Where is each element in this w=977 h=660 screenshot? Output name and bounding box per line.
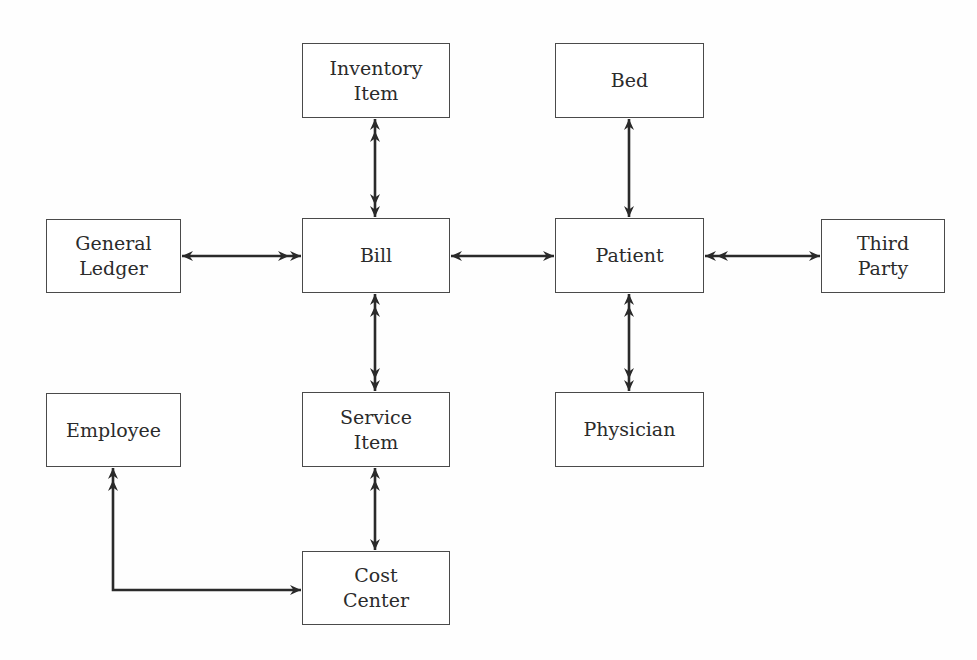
relationship-line bbox=[113, 468, 301, 590]
entity-cost-center: CostCenter bbox=[302, 551, 450, 625]
entity-employee: Employee bbox=[46, 393, 181, 467]
entity-physician: Physician bbox=[555, 392, 704, 467]
entity-label-line: Item bbox=[354, 430, 398, 455]
entity-general-ledger: GeneralLedger bbox=[46, 219, 181, 293]
entity-label-line: Cost bbox=[354, 563, 397, 588]
entity-label-line: Item bbox=[354, 81, 398, 106]
entity-label-line: Physician bbox=[584, 417, 676, 442]
relationship-inventory-item-to-bill bbox=[370, 119, 380, 217]
entity-label-line: Bill bbox=[360, 243, 392, 268]
entity-label-line: Employee bbox=[66, 418, 161, 443]
entity-bill: Bill bbox=[302, 218, 450, 293]
entity-label-line: Bed bbox=[611, 68, 648, 93]
entity-label-line: General bbox=[75, 231, 151, 256]
relationship-bill-to-patient bbox=[451, 251, 554, 261]
relationship-employee-to-cost-center bbox=[108, 468, 301, 595]
entity-third-party: ThirdParty bbox=[821, 219, 945, 293]
er-diagram: InventoryItemBedGeneralLedgerBillPatient… bbox=[0, 0, 977, 660]
entity-label-line: Inventory bbox=[330, 56, 423, 81]
relationship-patient-to-physician bbox=[624, 294, 634, 391]
entity-label-line: Center bbox=[343, 588, 409, 613]
relationship-links bbox=[0, 0, 977, 660]
entity-label-line: Ledger bbox=[79, 256, 148, 281]
relationship-service-item-to-cost-center bbox=[370, 468, 380, 550]
relationship-patient-to-third-party bbox=[705, 251, 820, 261]
relationship-bed-to-patient bbox=[624, 119, 634, 217]
entity-inventory-item: InventoryItem bbox=[302, 43, 450, 118]
entity-label-line: Third bbox=[857, 231, 909, 256]
entity-label-line: Service bbox=[340, 405, 412, 430]
entity-patient: Patient bbox=[555, 218, 704, 293]
relationship-general-ledger-to-bill bbox=[182, 251, 301, 261]
entity-bed: Bed bbox=[555, 43, 704, 118]
entity-service-item: ServiceItem bbox=[302, 392, 450, 467]
entity-label-line: Party bbox=[858, 256, 909, 281]
entity-label-line: Patient bbox=[595, 243, 663, 268]
relationship-bill-to-service-item bbox=[370, 294, 380, 391]
